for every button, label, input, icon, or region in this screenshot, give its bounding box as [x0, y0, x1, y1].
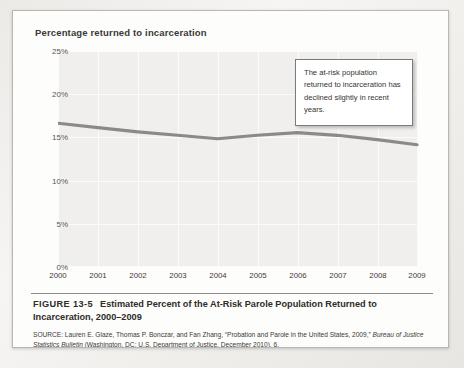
caption-divider	[31, 293, 433, 294]
x-tick-2004: 2004	[209, 271, 226, 280]
x-tick-2009: 2009	[408, 271, 425, 280]
figure-source: SOURCE: Lauren E. Glaze, Thomas P. Boncz…	[33, 330, 441, 348]
y-tick-25: 25%	[28, 47, 68, 56]
y-tick-10: 10%	[28, 177, 68, 186]
x-tick-2002: 2002	[129, 271, 146, 280]
figure-caption: FIGURE 13-5Estimated Percent of the At-R…	[33, 298, 435, 324]
x-tick-2000: 2000	[49, 271, 66, 280]
x-tick-2006: 2006	[289, 271, 306, 280]
y-tick-5: 5%	[28, 220, 68, 229]
x-tick-2007: 2007	[329, 271, 346, 280]
source-line-1: SOURCE: Lauren E. Glaze, Thomas P. Boncz…	[33, 331, 371, 338]
source-line-2: (Washington, DC: U.S. Department of Just…	[83, 341, 279, 348]
figure-card: Percentage returned to incarceration	[12, 10, 449, 348]
y-tick-15: 15%	[28, 133, 68, 142]
x-tick-2003: 2003	[169, 271, 186, 280]
figure-number: FIGURE 13-5	[33, 299, 93, 309]
x-tick-2005: 2005	[249, 271, 266, 280]
y-tick-20: 20%	[28, 90, 68, 99]
callout-annotation: The at-risk population returned to incar…	[295, 59, 413, 126]
x-tick-2008: 2008	[369, 271, 386, 280]
x-tick-2001: 2001	[89, 271, 106, 280]
chart-plot-wrapper: 25% 20% 15% 10% 5% 0% 2000 2001 2002 200…	[13, 11, 449, 281]
